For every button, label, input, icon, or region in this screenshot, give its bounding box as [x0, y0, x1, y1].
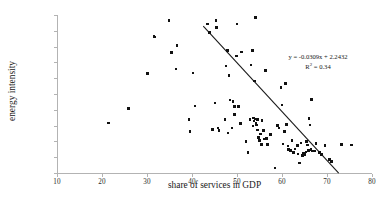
- data-point: [310, 98, 313, 101]
- scatter-chart: 0.00.10.20.30.40.50.60.70.80.91.0 102030…: [0, 0, 387, 208]
- data-point: [260, 143, 263, 146]
- data-point: [240, 51, 243, 54]
- data-point: [305, 140, 308, 143]
- data-point: [237, 105, 240, 108]
- data-point: [253, 80, 256, 83]
- trendline: [57, 15, 372, 173]
- data-point: [189, 130, 192, 133]
- data-point: [280, 86, 283, 89]
- x-axis-tick: [372, 174, 373, 177]
- x-axis-tick: [57, 174, 58, 177]
- data-point: [256, 129, 259, 132]
- trendline-r-squared-text: R2 = 0.34: [262, 62, 374, 72]
- plot-area: 0.00.10.20.30.40.50.60.70.80.91.0 102030…: [57, 15, 372, 173]
- data-point: [281, 104, 284, 107]
- x-axis-tick: [192, 174, 193, 177]
- data-point: [274, 167, 277, 170]
- data-point: [107, 122, 110, 125]
- data-point: [254, 16, 257, 19]
- data-point: [208, 31, 211, 34]
- data-point: [309, 124, 312, 127]
- data-point: [188, 118, 191, 121]
- data-point: [297, 153, 300, 156]
- data-point: [285, 123, 288, 126]
- trendline-equation-annotation: y = -0.0309x + 2.2432 R2 = 0.34: [262, 52, 374, 71]
- data-point: [282, 143, 285, 146]
- data-point: [340, 143, 343, 146]
- x-axis-line: [57, 173, 372, 174]
- data-point: [298, 162, 301, 165]
- data-point: [287, 145, 290, 148]
- data-point: [265, 137, 268, 140]
- data-point: [269, 133, 272, 136]
- data-point: [226, 49, 229, 52]
- x-axis-title: share of services in GDP: [57, 180, 372, 190]
- data-point: [330, 160, 333, 163]
- data-point: [303, 153, 306, 156]
- data-point: [231, 127, 234, 130]
- data-point: [227, 132, 230, 135]
- data-point: [324, 144, 327, 147]
- data-point: [232, 100, 235, 103]
- data-point: [176, 44, 179, 47]
- r-squared-value: = 0.34: [312, 63, 331, 70]
- data-point: [258, 139, 261, 142]
- x-axis-tick: [147, 174, 148, 177]
- data-point: [233, 113, 236, 116]
- data-point: [233, 105, 236, 108]
- data-point: [284, 82, 287, 85]
- data-point: [255, 124, 258, 127]
- data-point: [146, 72, 149, 75]
- data-point: [292, 151, 295, 154]
- x-axis-tick: [282, 174, 283, 177]
- data-point: [296, 144, 299, 147]
- data-point: [247, 151, 250, 154]
- data-point: [153, 36, 156, 39]
- data-point: [215, 26, 218, 29]
- data-point: [261, 119, 264, 122]
- x-axis-tick: [237, 174, 238, 177]
- data-point: [251, 49, 254, 52]
- data-point: [245, 140, 248, 143]
- data-point: [215, 19, 218, 22]
- data-point: [214, 102, 217, 105]
- data-point: [308, 117, 311, 120]
- data-point: [175, 68, 178, 71]
- data-point: [320, 153, 323, 156]
- data-point: [211, 128, 214, 131]
- y-axis-title: energy intensity: [7, 31, 17, 151]
- data-point: [224, 118, 227, 121]
- data-point: [259, 133, 262, 136]
- x-axis-tick: [327, 174, 328, 177]
- data-point: [300, 142, 303, 145]
- data-point: [239, 122, 242, 125]
- data-point: [350, 144, 353, 147]
- data-point: [283, 130, 286, 133]
- data-point: [262, 129, 265, 132]
- data-point: [291, 139, 294, 142]
- data-point: [249, 118, 252, 121]
- data-point: [294, 148, 297, 151]
- data-point: [278, 127, 281, 130]
- x-axis-tick: [102, 174, 103, 177]
- data-point: [192, 72, 195, 75]
- data-point: [250, 64, 253, 67]
- data-point: [236, 23, 239, 26]
- data-point: [218, 129, 221, 132]
- data-point: [127, 107, 130, 110]
- data-point: [206, 23, 209, 26]
- data-point: [306, 144, 309, 147]
- data-point: [315, 142, 318, 145]
- trendline-equation-text: y = -0.0309x + 2.2432: [262, 52, 374, 62]
- data-point: [170, 51, 173, 54]
- data-point: [235, 55, 238, 58]
- data-point: [225, 65, 228, 68]
- data-point: [168, 19, 171, 22]
- data-point: [256, 118, 259, 121]
- data-point: [313, 150, 316, 153]
- data-point: [266, 143, 269, 146]
- data-point: [194, 105, 197, 108]
- data-point: [228, 74, 231, 77]
